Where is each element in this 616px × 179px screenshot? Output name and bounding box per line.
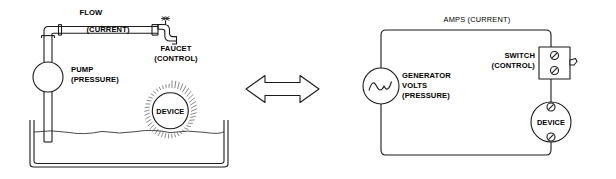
amps-current-label: AMPS (CURRENT) bbox=[444, 15, 511, 24]
generator-symbol bbox=[363, 68, 399, 104]
flow-current-label: (CURRENT) bbox=[86, 25, 129, 34]
faucet-handle bbox=[161, 17, 170, 21]
electrical-device-symbol: DEVICE bbox=[531, 102, 571, 142]
water-surface-line bbox=[34, 130, 224, 133]
generator-body bbox=[363, 68, 399, 104]
switch-control-label: (CONTROL) bbox=[492, 61, 536, 70]
electrical-circuit-group: DEVICE AMPS (CURRENT) GENERATOR VOLTS (P… bbox=[363, 15, 577, 155]
switch-symbol bbox=[539, 47, 577, 79]
switch-toggle[interactable] bbox=[570, 59, 577, 66]
flow-label: FLOW bbox=[80, 8, 103, 17]
hydraulic-system-group: FLOW (CURRENT) FAUCET (CONTROL) PUMP (PR… bbox=[30, 8, 228, 167]
generator-pressure-label: (PRESSURE) bbox=[402, 91, 450, 100]
electrical-device-label: DEVICE bbox=[537, 118, 565, 127]
switch-label: SWITCH bbox=[504, 51, 535, 60]
equivalence-arrow-icon bbox=[246, 76, 319, 103]
pump-label: PUMP bbox=[71, 65, 93, 74]
hydraulic-device-label: DEVICE bbox=[156, 107, 184, 116]
pump-pressure-label: (PRESSURE) bbox=[71, 75, 119, 84]
faucet-label: FAUCET bbox=[161, 44, 192, 53]
diagram-canvas: FLOW (CURRENT) FAUCET (CONTROL) PUMP (PR… bbox=[0, 0, 616, 179]
faucet-control-label: (CONTROL) bbox=[154, 54, 198, 63]
analogy-diagram: FLOW (CURRENT) FAUCET (CONTROL) PUMP (PR… bbox=[0, 0, 616, 179]
pump-body bbox=[33, 62, 63, 92]
riser-pipe bbox=[44, 35, 52, 62]
faucet-icon bbox=[158, 17, 177, 44]
water-tank bbox=[30, 120, 228, 167]
generator-label: GENERATOR bbox=[402, 71, 451, 80]
generator-volts-label: VOLTS bbox=[402, 81, 427, 90]
